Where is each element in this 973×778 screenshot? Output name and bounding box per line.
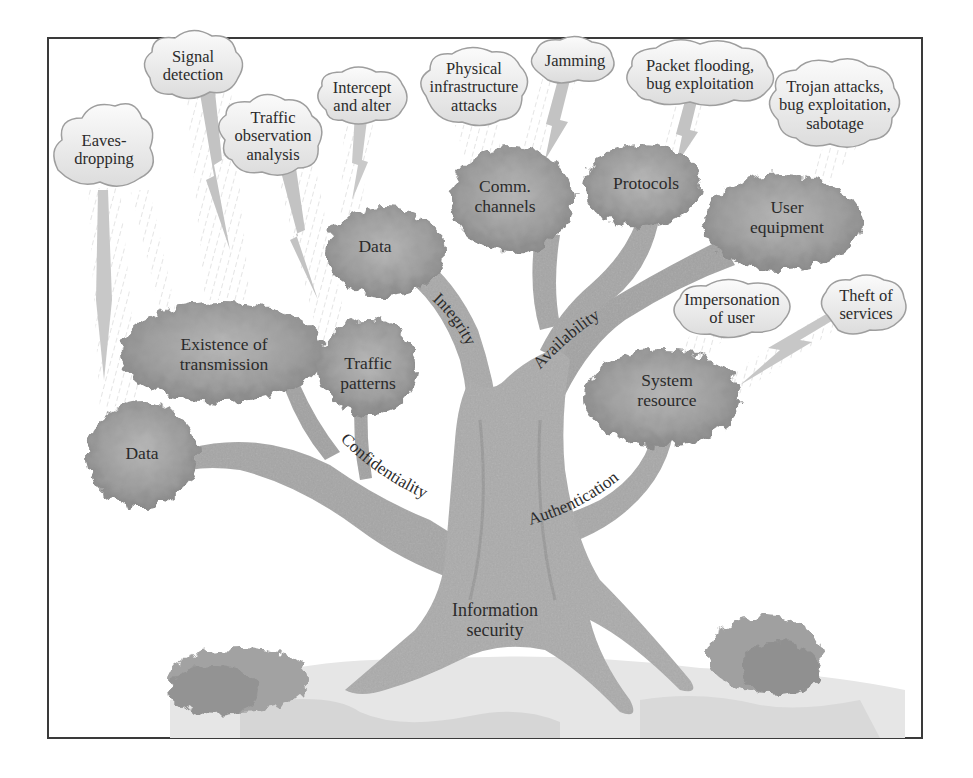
asset-line: User bbox=[750, 198, 824, 218]
threat-line: Theft of bbox=[839, 287, 893, 305]
asset-line: Data bbox=[125, 444, 158, 464]
threat-traffic-observation: Traffic observation analysis bbox=[235, 109, 312, 164]
threat-line: Trojan attacks, bbox=[779, 78, 891, 96]
threat-impersonation: Impersonation of user bbox=[684, 291, 779, 328]
asset-line: Comm. bbox=[474, 177, 535, 197]
threat-line: Traffic bbox=[235, 109, 312, 127]
asset-line: Existence of bbox=[180, 335, 268, 355]
asset-confidentiality-data: Data bbox=[125, 444, 158, 464]
asset-line: transmission bbox=[180, 355, 268, 375]
threat-line: attacks bbox=[430, 97, 519, 115]
threat-line: services bbox=[839, 305, 893, 323]
threat-eavesdropping: Eaves- dropping bbox=[74, 132, 134, 169]
asset-line: equipment bbox=[750, 218, 824, 238]
threat-line: Packet flooding, bbox=[646, 57, 754, 75]
threat-line: Eaves- bbox=[74, 132, 134, 150]
threat-line: Impersonation bbox=[684, 291, 779, 309]
threat-line: Intercept bbox=[333, 79, 392, 97]
threat-physical-infrastructure: Physical infrastructure attacks bbox=[430, 60, 519, 115]
asset-integrity-data: Data bbox=[358, 237, 391, 257]
threat-intercept-alter: Intercept and alter bbox=[333, 79, 392, 116]
threat-line: of user bbox=[684, 309, 779, 327]
asset-line: patterns bbox=[340, 374, 395, 394]
threat-line: infrastructure bbox=[430, 79, 519, 97]
threat-theft-of-services: Theft of services bbox=[839, 287, 893, 324]
threat-line: Signal bbox=[163, 48, 223, 66]
asset-existence-of-transmission: Existence of transmission bbox=[180, 335, 268, 374]
root-information-security: Information security bbox=[452, 600, 538, 640]
asset-line: Protocols bbox=[613, 174, 679, 194]
asset-comm-channels: Comm. channels bbox=[474, 177, 535, 216]
threat-line: sabotage bbox=[779, 115, 891, 133]
asset-line: System bbox=[637, 371, 696, 391]
threat-line: detection bbox=[163, 66, 223, 84]
threat-signal-detection: Signal detection bbox=[163, 48, 223, 85]
root-line: security bbox=[452, 620, 538, 640]
threat-trojan-attacks: Trojan attacks, bug exploitation, sabota… bbox=[779, 78, 891, 133]
threat-line: bug exploitation, bbox=[779, 97, 891, 115]
asset-line: resource bbox=[637, 391, 696, 411]
asset-line: Traffic bbox=[340, 354, 395, 374]
threat-line: dropping bbox=[74, 150, 134, 168]
asset-protocols: Protocols bbox=[613, 174, 679, 194]
threat-line: observation bbox=[235, 128, 312, 146]
asset-traffic-patterns: Traffic patterns bbox=[340, 354, 395, 393]
asset-line: channels bbox=[474, 197, 535, 217]
root-line: Information bbox=[452, 600, 538, 620]
asset-system-resource: System resource bbox=[637, 371, 696, 410]
threat-packet-flooding: Packet flooding, bug exploitation bbox=[646, 57, 754, 94]
threat-line: bug exploitation bbox=[646, 75, 754, 93]
asset-user-equipment: User equipment bbox=[750, 198, 824, 237]
threat-line: Jamming bbox=[545, 52, 606, 70]
asset-line: Data bbox=[358, 237, 391, 257]
threat-line: and alter bbox=[333, 97, 392, 115]
threat-line: analysis bbox=[235, 146, 312, 164]
threat-jamming: Jamming bbox=[545, 52, 606, 70]
threat-line: Physical bbox=[430, 60, 519, 78]
diagram-canvas: Confidentiality Integrity Availability A… bbox=[0, 0, 973, 778]
